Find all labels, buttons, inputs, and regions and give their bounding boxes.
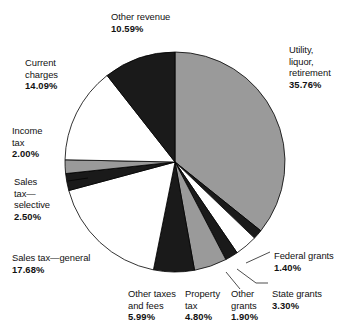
slice-label-value: 10.59% bbox=[111, 23, 170, 35]
slice-label-property-tax: Property tax4.80% bbox=[185, 288, 220, 323]
slice-label-value: 2.50% bbox=[14, 211, 50, 223]
slice-label-other-revenue: Other revenue10.59% bbox=[111, 11, 170, 34]
slice-label-name: Other grants bbox=[231, 288, 258, 311]
state-grants-leader bbox=[237, 269, 268, 283]
slice-label-name: Sales tax—general bbox=[12, 252, 90, 264]
slice-label-name: Sales tax— selective bbox=[14, 176, 50, 211]
slice-label-name: Current charges bbox=[25, 57, 58, 80]
slice-label-sales-tax-general: Sales tax—general17.68% bbox=[12, 252, 90, 275]
pie-chart: Utility, liquor, retirement35.76%Federal… bbox=[0, 0, 339, 335]
slice-label-value: 1.40% bbox=[274, 262, 334, 274]
slice-label-federal-grants: Federal grants1.40% bbox=[274, 250, 334, 273]
other-grants-leader bbox=[226, 272, 240, 289]
slice-label-value: 35.76% bbox=[289, 79, 339, 91]
federal-grants-leader bbox=[246, 252, 270, 263]
slice-label-state-grants: State grants3.30% bbox=[272, 288, 322, 311]
slice-label-value: 4.80% bbox=[185, 311, 220, 323]
slice-label-value: 1.90% bbox=[231, 311, 258, 323]
slice-label-value: 5.99% bbox=[128, 311, 176, 323]
slice-label-income-tax: Income tax2.00% bbox=[12, 125, 42, 160]
slice-label-value: 17.68% bbox=[12, 264, 90, 276]
slice-label-name: Other taxes and fees bbox=[128, 288, 176, 311]
slice-label-other-taxes-and-fees: Other taxes and fees5.99% bbox=[128, 288, 176, 323]
slice-label-current-charges: Current charges14.09% bbox=[25, 57, 58, 92]
slice-label-value: 2.00% bbox=[12, 148, 42, 160]
slice-label-value: 14.09% bbox=[25, 80, 58, 92]
slice-label-name: Other revenue bbox=[111, 11, 170, 23]
slice-label-other-grants: Other grants1.90% bbox=[231, 288, 258, 323]
slice-label-utility-liquor-retirement: Utility, liquor, retirement35.76% bbox=[289, 44, 339, 90]
slice-label-value: 3.30% bbox=[272, 300, 322, 312]
slice-label-sales-tax-selective: Sales tax— selective2.50% bbox=[14, 176, 50, 222]
slice-label-name: Federal grants bbox=[274, 250, 334, 262]
slice-label-name: State grants bbox=[272, 288, 322, 300]
slice-label-name: Utility, liquor, retirement bbox=[289, 44, 339, 79]
pie-slices-group bbox=[65, 52, 285, 272]
slice-label-name: Property tax bbox=[185, 288, 220, 311]
slice-label-name: Income tax bbox=[12, 125, 42, 148]
